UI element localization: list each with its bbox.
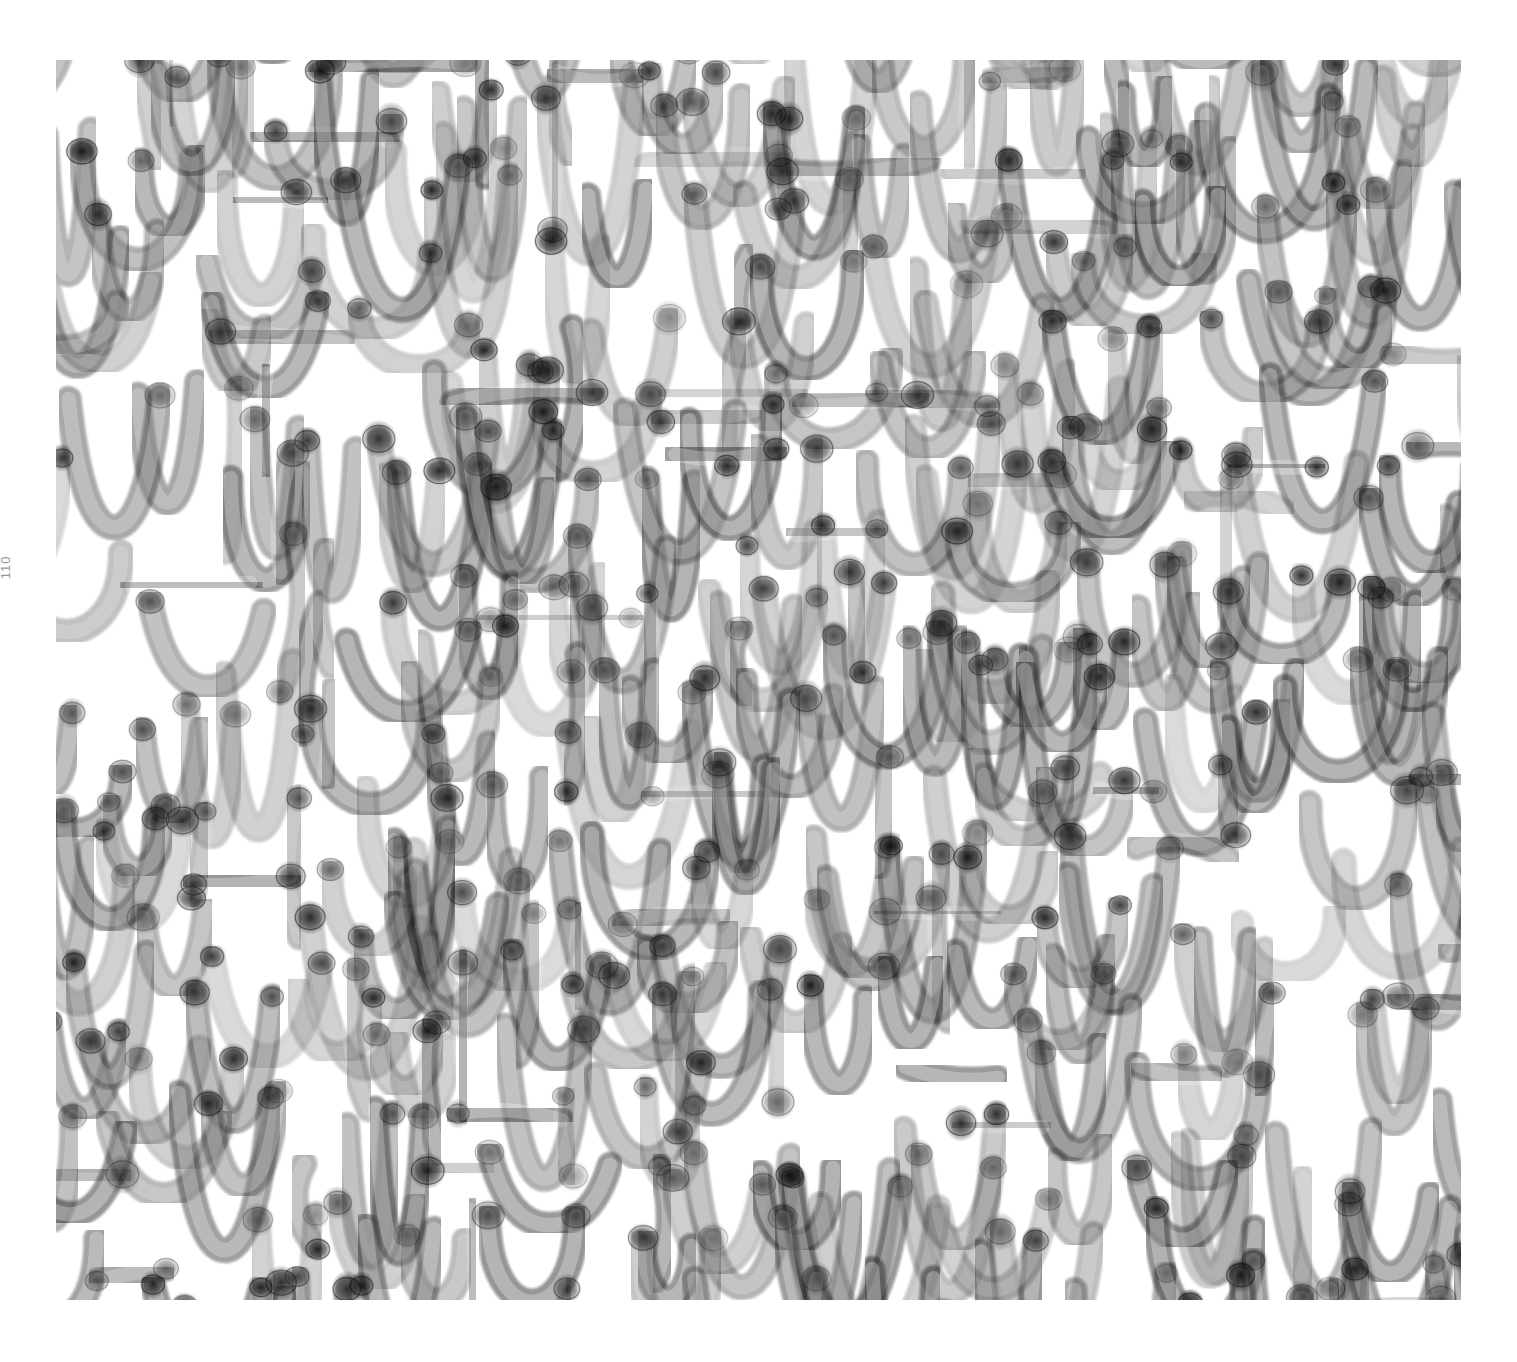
artwork-canvas: [56, 60, 1461, 1300]
tube-strokes: [56, 60, 1461, 1300]
page-number: 110: [0, 556, 13, 580]
abstract-tube-artwork: [56, 60, 1461, 1300]
